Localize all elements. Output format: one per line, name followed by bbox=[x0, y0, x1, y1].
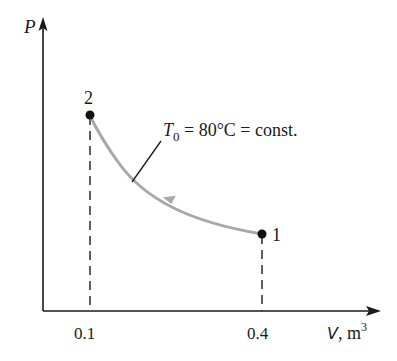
state-point-2-label: 2 bbox=[84, 88, 93, 108]
annotation-leader bbox=[132, 141, 161, 182]
state-point-1-label: 1 bbox=[272, 225, 281, 245]
diagram-svg: P 0.1 0.4 V, m3 T0 = 80°C = const. 2 1 bbox=[0, 0, 397, 361]
y-axis: P bbox=[23, 16, 48, 311]
x-tick-0-1: 0.1 bbox=[74, 324, 95, 343]
x-axis-label: V, m3 bbox=[327, 320, 367, 343]
state-point-1: 1 bbox=[258, 225, 282, 245]
pv-diagram: P 0.1 0.4 V, m3 T0 = 80°C = const. 2 1 bbox=[0, 0, 397, 361]
x-tick-0-4: 0.4 bbox=[247, 324, 269, 343]
process-annotation: T0 = 80°C = const. bbox=[163, 120, 298, 144]
state-point-2: 2 bbox=[84, 88, 95, 120]
y-axis-label: P bbox=[23, 16, 36, 37]
x-axis: 0.1 0.4 V, m3 bbox=[43, 306, 381, 343]
